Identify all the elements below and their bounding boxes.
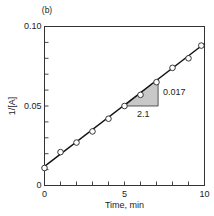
data-point — [122, 103, 128, 109]
x-tick-label: 0 — [42, 189, 47, 199]
y-tick-label: 0 — [36, 180, 41, 190]
x-axis-label: Time, min — [105, 200, 144, 210]
data-point — [90, 129, 96, 135]
data-point — [42, 165, 48, 171]
data-point — [58, 149, 64, 155]
chart-root: (b)2.10.017051000.050.10Time, min1/[A] — [0, 0, 214, 216]
x-tick-label: 5 — [122, 189, 127, 199]
y-tick-label: 0.10 — [24, 21, 42, 31]
x-tick-label: 10 — [199, 189, 209, 199]
data-point — [138, 92, 144, 98]
slope-rise-label: 0.017 — [163, 87, 186, 97]
data-point — [199, 43, 205, 49]
panel-label: (b) — [42, 5, 53, 15]
y-tick-label: 0.05 — [24, 101, 42, 111]
data-point — [186, 56, 192, 62]
y-axis-label: 1/[A] — [7, 97, 17, 116]
data-point — [170, 65, 176, 71]
data-point — [74, 140, 80, 146]
data-point — [154, 79, 160, 85]
slope-run-label: 2.1 — [137, 109, 150, 119]
data-point — [106, 116, 112, 122]
